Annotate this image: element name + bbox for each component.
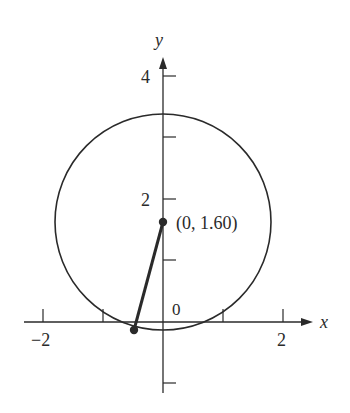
y-tick-label-2: 2 [141, 190, 150, 210]
y-tick-label-4: 4 [141, 67, 150, 87]
x-axis-label: x [319, 312, 328, 332]
center-point-label: (0, 1.60) [176, 213, 238, 234]
y-axis-label: y [153, 30, 163, 50]
radius-segment [134, 222, 163, 330]
y-axis-arrowhead-icon [159, 57, 167, 69]
diagram-svg: y x 4 2 −2 2 0 (0, 1.60) [0, 0, 350, 413]
diagram-canvas: y x 4 2 −2 2 0 (0, 1.60) [0, 0, 350, 413]
origin-label: 0 [172, 300, 181, 319]
x-tick-label-2: 2 [277, 330, 286, 350]
center-point [159, 218, 167, 226]
rim-point [130, 326, 138, 334]
x-axis-arrowhead-icon [301, 318, 313, 326]
x-tick-label-neg2: −2 [31, 330, 50, 350]
